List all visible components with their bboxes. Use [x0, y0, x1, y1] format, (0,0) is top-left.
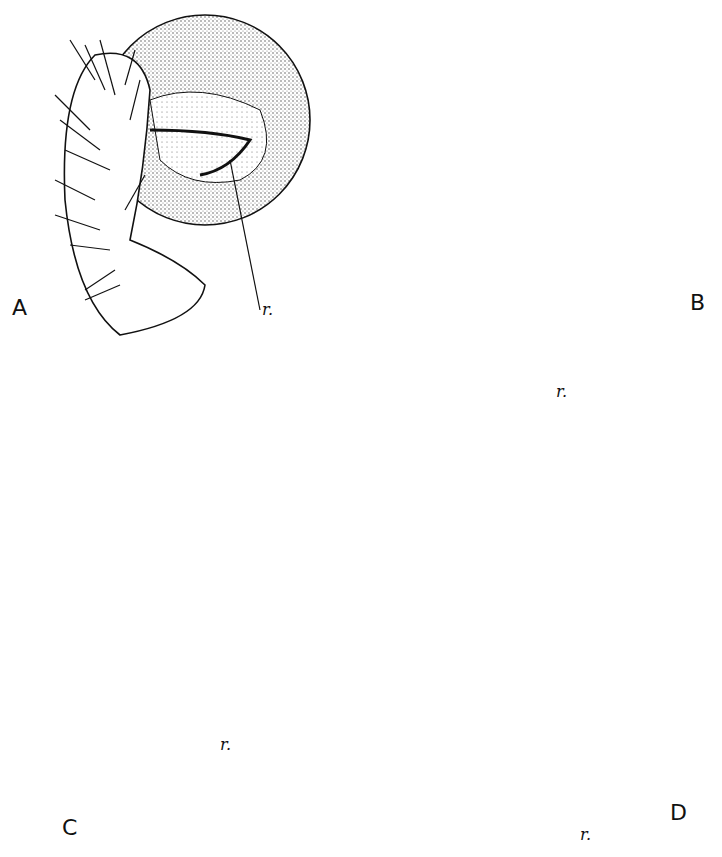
- panel-label-c: C: [62, 815, 77, 840]
- figure-illustrations: [0, 0, 722, 857]
- panel-label-b: B: [690, 290, 705, 315]
- panel-a-drawing: [55, 15, 310, 335]
- annotation-r-c: r.: [220, 735, 231, 754]
- panel-label-a: A: [12, 295, 27, 320]
- annotation-r-d: r.: [580, 825, 591, 844]
- annotation-r-a: r.: [262, 300, 273, 319]
- panel-label-d: D: [670, 800, 687, 825]
- annotation-r-b: r.: [556, 382, 567, 401]
